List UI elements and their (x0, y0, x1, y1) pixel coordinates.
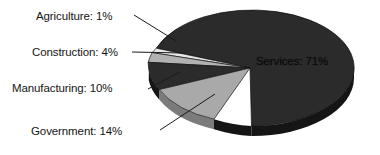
slice-label-construction: Construction: 4% (32, 47, 118, 59)
slice-label-manufacturing: Manufacturing: 10% (12, 83, 112, 95)
slice-label-services: Services: 71% (256, 56, 328, 68)
slice-label-government: Government: 14% (31, 126, 122, 138)
leader-line-agriculture (134, 15, 176, 41)
pie-chart-figure: Agriculture: 1% Construction: 4% Manufac… (0, 0, 380, 155)
slice-side-services-front (214, 119, 252, 136)
slice-label-agriculture: Agriculture: 1% (36, 11, 112, 23)
